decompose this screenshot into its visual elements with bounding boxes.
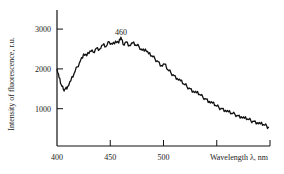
spectrum-line (57, 37, 269, 128)
x-tick-label: 400 (51, 153, 63, 162)
y-tick-label: 3000 (35, 25, 51, 34)
y-ticks: 100020003000 (35, 25, 63, 114)
peak-annotation: 460 (115, 28, 127, 37)
x-axis-title: Wavelength λ, nm (210, 153, 269, 162)
x-tick-label: 450 (104, 153, 116, 162)
x-tick-label: 500 (158, 153, 170, 162)
fluorescence-chart: 100020003000 400450500 460 Wavelength λ,… (0, 0, 284, 174)
y-tick-label: 1000 (35, 105, 51, 114)
axes (57, 10, 270, 146)
y-axis-title: Intensity of fluorescence, r.u. (7, 37, 16, 130)
y-tick-label: 2000 (35, 65, 51, 74)
